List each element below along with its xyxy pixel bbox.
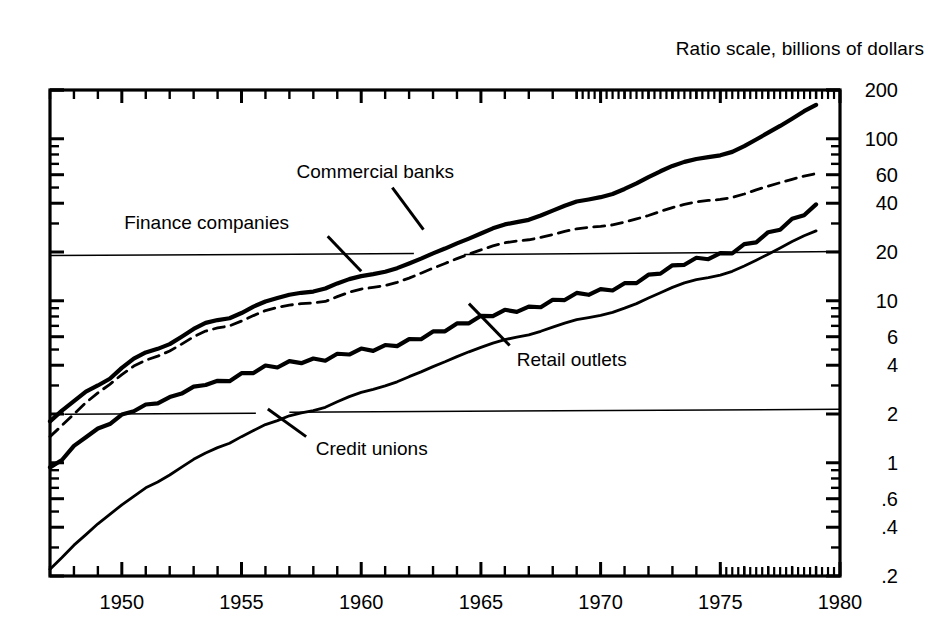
x-axis-label: 1975 <box>698 591 743 613</box>
y-axis-label: .4 <box>881 516 898 538</box>
y-axis-label: 40 <box>876 192 898 214</box>
reference-line <box>289 409 840 412</box>
y-axis-label: .6 <box>881 488 898 510</box>
chart-root: Ratio scale, billions of dollars 2001006… <box>0 0 948 640</box>
y-axis-label: 2 <box>887 403 898 425</box>
reference-line <box>50 254 414 256</box>
x-axis-label: 1965 <box>459 591 504 613</box>
y-axis-label: 200 <box>865 79 898 101</box>
series-line <box>50 204 816 467</box>
y-axis-label: 1 <box>887 452 898 474</box>
y-axis-label: 100 <box>865 128 898 150</box>
y-axis-label: 20 <box>876 241 898 263</box>
annotation-credit-unions: Credit unions <box>316 438 428 459</box>
annotation-finance-companies: Finance companies <box>124 212 289 233</box>
leader-line <box>392 188 423 230</box>
x-axis-label: 1960 <box>339 591 384 613</box>
series-line <box>50 105 816 422</box>
y-axis-label: 6 <box>887 326 898 348</box>
x-axis-label: 1955 <box>219 591 264 613</box>
y-axis-label: 60 <box>876 164 898 186</box>
y-axis-label: 10 <box>876 290 898 312</box>
reference-line <box>64 413 256 414</box>
annotation-retail-outlets: Retail outlets <box>517 349 627 370</box>
x-axis-label: 1980 <box>818 591 863 613</box>
annotation-commercial-banks: Commercial banks <box>297 161 454 182</box>
reference-line <box>464 252 840 255</box>
y-axis-label: .2 <box>881 565 898 587</box>
x-axis-label: 1950 <box>100 591 145 613</box>
y-axis-label: 4 <box>887 354 898 376</box>
x-axis-label: 1970 <box>578 591 623 613</box>
chart-canvas: 200100604020106421.6.4.21950195519601965… <box>0 0 948 640</box>
